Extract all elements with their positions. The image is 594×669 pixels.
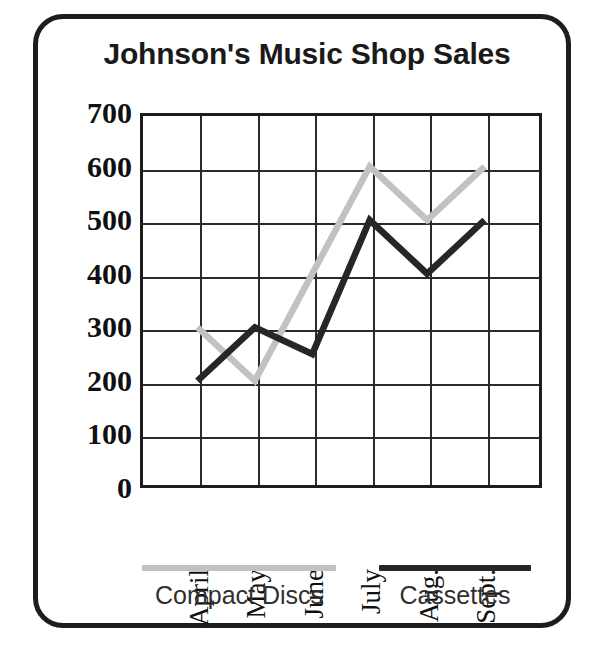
legend-entry-cassettes: Cassettes — [379, 565, 531, 610]
y-tick-label-200: 200 — [36, 366, 132, 396]
legend-swatch-compact-discs — [142, 565, 336, 571]
y-tick-label-400: 400 — [36, 259, 132, 289]
legend-entry-compact-discs: Compact Discs — [142, 565, 336, 610]
chart-title: Johnson's Music Shop Sales — [38, 37, 576, 71]
chart-card: Johnson's Music Shop Sales 700 600 500 4… — [33, 14, 571, 628]
y-tick-label-300: 300 — [36, 312, 132, 342]
legend-label-compact-discs: Compact Discs — [142, 581, 336, 610]
plot-wrap — [140, 113, 542, 488]
line-compact-discs — [197, 167, 484, 381]
y-tick-label-700: 700 — [36, 98, 132, 128]
legend-label-cassettes: Cassettes — [379, 581, 531, 610]
y-tick-label-600: 600 — [36, 152, 132, 182]
y-tick-label-0: 0 — [36, 473, 132, 503]
x-axis-labels: April May June July Aug. Sept. — [140, 491, 542, 571]
series-lines — [140, 113, 542, 488]
y-axis-labels: 700 600 500 400 300 200 100 0 — [32, 113, 132, 488]
chart-legend: Compact Discs Cassettes — [38, 565, 576, 625]
y-tick-label-500: 500 — [36, 205, 132, 235]
y-tick-label-100: 100 — [36, 419, 132, 449]
legend-swatch-cassettes — [379, 565, 531, 571]
line-cassettes — [197, 220, 484, 381]
